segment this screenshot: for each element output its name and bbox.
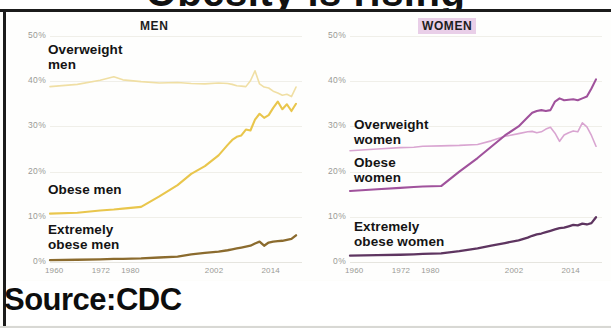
panel-men: MEN 50%40%30%20%10%0% 196019721980200220… (6, 12, 306, 280)
plot-women (306, 12, 611, 280)
chart-screenshot: Obesity is rising MEN 50%40%30%20%10%0% … (0, 0, 611, 328)
source-label: Source:CDC (4, 282, 182, 318)
panel-women: WOMEN 50%40%30%20%10%0% 1960197219802002… (306, 12, 611, 280)
series-label-overweight-men: Overweight men (48, 42, 123, 72)
headline-text: Obesity is rising (0, 0, 611, 9)
series-line-overweight-men (50, 71, 296, 97)
cropped-headline: Obesity is rising (0, 0, 611, 9)
series-label-extremely-obese-women: Extremely obese women (354, 219, 444, 249)
series-label-obese-women: Obese women (354, 155, 401, 185)
series-label-obese-men: Obese men (48, 182, 122, 197)
chart-area: MEN 50%40%30%20%10%0% 196019721980200220… (6, 12, 611, 280)
series-label-overweight-women: Overweight women (354, 117, 429, 147)
series-label-extremely-obese-men: Extremely obese men (48, 222, 119, 252)
